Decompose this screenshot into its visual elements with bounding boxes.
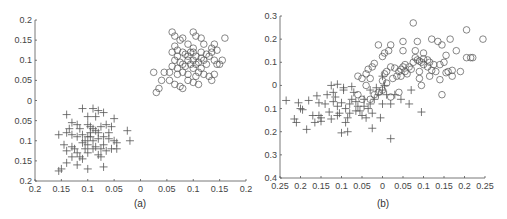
cross-point bbox=[313, 92, 321, 100]
cross-point bbox=[126, 137, 134, 145]
circle-point bbox=[437, 76, 444, 83]
cross-point bbox=[417, 108, 425, 116]
circle-point bbox=[416, 68, 423, 75]
circle-point bbox=[480, 36, 487, 43]
cross-point bbox=[63, 111, 71, 119]
circle-point bbox=[435, 38, 442, 45]
circle-point bbox=[457, 68, 464, 75]
circle-point bbox=[400, 47, 407, 54]
cross-point bbox=[282, 96, 290, 104]
x-tick-label: 0.2 bbox=[240, 184, 253, 194]
cross-point bbox=[55, 131, 63, 139]
y-tick-label: 0.1 bbox=[264, 57, 277, 67]
circle-point bbox=[443, 52, 450, 59]
cross-point bbox=[346, 109, 354, 117]
circle-point bbox=[387, 64, 394, 71]
scatter-plot-a: 0.20.150.10.0500.050.10.150.20.20.150.10… bbox=[14, 15, 252, 209]
figure: 0.20.150.10.0500.050.10.150.20.20.150.10… bbox=[0, 0, 507, 219]
cross-point bbox=[348, 83, 356, 91]
cross-point bbox=[387, 100, 395, 108]
cross-point bbox=[338, 99, 346, 107]
cross-point bbox=[383, 91, 391, 99]
x-tick-label: 0.2 bbox=[294, 181, 307, 191]
cross-point bbox=[329, 88, 337, 96]
cross-point bbox=[397, 95, 405, 103]
y-tick-label: 0.2 bbox=[264, 127, 277, 137]
cross-point bbox=[315, 99, 323, 107]
cross-point bbox=[68, 153, 76, 161]
cross-point bbox=[294, 99, 302, 107]
circle-point bbox=[453, 47, 460, 54]
cross-point bbox=[360, 95, 368, 103]
circle-point bbox=[426, 73, 433, 80]
circle-point bbox=[150, 69, 157, 76]
cross-point bbox=[376, 114, 384, 122]
y-tick-label: 0.15 bbox=[14, 35, 32, 45]
cross-point bbox=[379, 86, 387, 94]
y-tick-label: 0.05 bbox=[14, 75, 32, 85]
circle-point bbox=[445, 68, 452, 75]
cross-point bbox=[113, 145, 121, 153]
cross-point bbox=[364, 105, 372, 113]
cross-point bbox=[303, 125, 311, 133]
cross-point bbox=[299, 106, 307, 114]
y-tick-label: 0.2 bbox=[19, 15, 32, 25]
circle-point bbox=[441, 59, 448, 66]
cross-point bbox=[321, 100, 329, 108]
y-tick-label: 0.4 bbox=[264, 173, 277, 183]
ticks-b: 0.250.20.150.10.0500.050.10.150.20.250.3… bbox=[264, 11, 493, 191]
x-tick-label: 0.05 bbox=[158, 184, 176, 194]
circle-point bbox=[375, 42, 382, 49]
circle-point bbox=[158, 77, 165, 84]
y-tick-label: 0.3 bbox=[264, 150, 277, 160]
cross-point bbox=[89, 105, 97, 113]
x-tick-label: 0.15 bbox=[312, 181, 330, 191]
cross-point bbox=[100, 109, 108, 117]
cross-point bbox=[407, 86, 415, 94]
x-tick-label: 0.05 bbox=[353, 181, 371, 191]
circle-point bbox=[414, 38, 421, 45]
cross-point bbox=[344, 114, 352, 122]
cross-point bbox=[290, 115, 298, 123]
cross-point bbox=[63, 159, 71, 167]
marks-b bbox=[282, 20, 486, 143]
cross-point bbox=[78, 105, 86, 113]
scatter-plot-b: 0.250.20.150.10.0500.050.10.150.20.250.3… bbox=[264, 11, 493, 209]
axes-a bbox=[35, 20, 246, 181]
cross-point bbox=[335, 109, 343, 117]
cross-point bbox=[348, 95, 356, 103]
x-tick-label: 0.1 bbox=[81, 184, 94, 194]
cross-point bbox=[297, 105, 305, 113]
circle-point bbox=[363, 82, 370, 89]
cross-point bbox=[331, 93, 339, 101]
cross-point bbox=[346, 100, 354, 108]
circle-point bbox=[201, 41, 208, 48]
cross-point bbox=[327, 115, 335, 123]
cross-point bbox=[311, 118, 319, 126]
cross-point bbox=[405, 100, 413, 108]
cross-point bbox=[391, 91, 399, 99]
cross-point bbox=[333, 80, 341, 88]
circle-point bbox=[433, 68, 440, 75]
cross-point bbox=[292, 118, 300, 126]
cross-point bbox=[381, 81, 389, 89]
y-tick-label: 0.1 bbox=[19, 136, 32, 146]
cross-point bbox=[368, 109, 376, 117]
cross-point bbox=[323, 91, 331, 99]
x-tick-label: 0 bbox=[138, 184, 143, 194]
circle-point bbox=[222, 35, 229, 42]
cross-point bbox=[358, 112, 366, 120]
circle-point bbox=[416, 75, 423, 82]
cross-point bbox=[327, 81, 335, 89]
cross-point bbox=[352, 107, 360, 115]
cross-point bbox=[73, 133, 81, 141]
cross-point bbox=[305, 96, 313, 104]
x-tick-label: 0.1 bbox=[335, 181, 348, 191]
circle-point bbox=[463, 27, 470, 34]
x-tick-label: 0.15 bbox=[211, 184, 229, 194]
y-tick-label: 0.05 bbox=[14, 116, 32, 126]
circle-point bbox=[412, 47, 419, 54]
circle-point bbox=[367, 75, 374, 82]
y-tick-label: 0.15 bbox=[14, 156, 32, 166]
cross-point bbox=[100, 133, 108, 141]
